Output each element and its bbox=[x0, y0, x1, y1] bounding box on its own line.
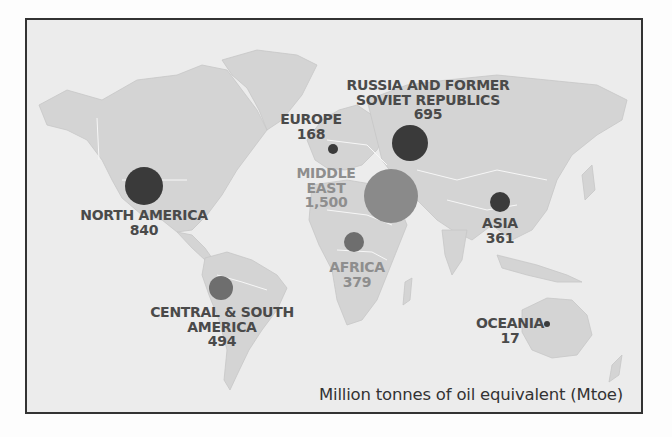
bubble-middle-east bbox=[364, 169, 418, 223]
label-africa: AFRICA 379 bbox=[329, 260, 385, 289]
label-asia: ASIA 361 bbox=[482, 216, 518, 245]
label-north-america: NORTH AMERICA 840 bbox=[80, 208, 207, 237]
region-name: ASIA bbox=[482, 216, 518, 231]
region-value: 494 bbox=[150, 334, 294, 349]
map-frame: NORTH AMERICA 840 CENTRAL & SOUTH AMERIC… bbox=[25, 18, 643, 414]
region-value: 379 bbox=[329, 275, 385, 290]
region-value: 695 bbox=[346, 107, 509, 122]
region-value: 168 bbox=[280, 127, 342, 142]
region-name-line1: CENTRAL & SOUTH bbox=[150, 305, 294, 320]
region-value: 361 bbox=[482, 231, 518, 246]
label-europe: EUROPE 168 bbox=[280, 112, 342, 141]
land-new-zealand bbox=[609, 355, 622, 382]
region-name: NORTH AMERICA bbox=[80, 207, 207, 223]
region-name-line2: SOVIET REPUBLICS bbox=[346, 93, 509, 108]
region-name: AFRICA bbox=[329, 260, 385, 275]
region-name-line1: MIDDLE bbox=[296, 166, 355, 181]
label-central-south-america: CENTRAL & SOUTH AMERICA 494 bbox=[150, 305, 294, 349]
bubble-europe bbox=[328, 144, 338, 154]
region-name-line2: AMERICA bbox=[150, 320, 294, 335]
region-name: OCEANIA bbox=[476, 316, 544, 331]
region-name: EUROPE bbox=[280, 112, 342, 127]
bubble-russia bbox=[392, 125, 428, 161]
bubble-central-south-america bbox=[209, 276, 233, 300]
label-russia: RUSSIA AND FORMER SOVIET REPUBLICS 695 bbox=[346, 78, 509, 122]
label-oceania: OCEANIA 17 bbox=[476, 316, 544, 345]
map-caption: Million tonnes of oil equivalent (Mtoe) bbox=[319, 385, 623, 404]
land-southeast-asia bbox=[497, 255, 582, 282]
label-middle-east: MIDDLE EAST 1,500 bbox=[296, 166, 355, 210]
region-value: 1,500 bbox=[296, 195, 355, 210]
bubble-asia bbox=[490, 192, 510, 212]
bubble-oceania bbox=[544, 321, 550, 327]
land-india bbox=[442, 230, 467, 275]
bubble-africa bbox=[344, 232, 364, 252]
region-name-line1: RUSSIA AND FORMER bbox=[346, 78, 509, 93]
region-value: 840 bbox=[80, 223, 207, 238]
region-value: 17 bbox=[476, 331, 544, 346]
bubble-north-america bbox=[125, 167, 163, 205]
land-japan bbox=[582, 165, 595, 200]
region-name-line2: EAST bbox=[296, 181, 355, 196]
land-madagascar bbox=[403, 278, 412, 305]
